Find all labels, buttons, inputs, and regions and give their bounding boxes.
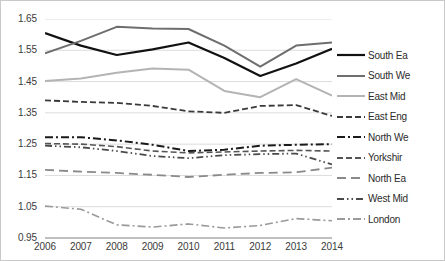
legend-swatch-icon <box>337 132 365 142</box>
series-line-west-mid <box>45 146 332 165</box>
legend-item-label: North Ea <box>368 173 406 184</box>
x-axis-tick-label: 2013 <box>279 241 313 252</box>
y-axis-tick-label: 1.25 <box>5 138 37 149</box>
legend-item-label: West Mid <box>368 193 408 204</box>
chart-figure: 0.951.051.151.251.351.451.551.65 2006200… <box>0 0 445 261</box>
legend-item-label: East Eng <box>368 111 407 122</box>
x-axis-tick-label: 2008 <box>100 241 134 252</box>
y-axis-tick-label: 1.15 <box>5 169 37 180</box>
x-axis-tick-label: 2006 <box>28 241 62 252</box>
legend-item-label: North We <box>368 132 408 143</box>
legend-item-label: East Mid <box>368 91 405 102</box>
legend-item-south-we[interactable]: South We <box>337 66 443 87</box>
chart-legend: South EaSouth WeEast MidEast EngNorth We… <box>337 45 443 230</box>
legend-item-label: Yorkshir <box>368 152 402 163</box>
legend-item-label: London <box>368 214 400 225</box>
legend-swatch-icon <box>337 194 365 204</box>
x-axis-tick-label: 2011 <box>207 241 241 252</box>
legend-item-south-ea[interactable]: South Ea <box>337 45 443 66</box>
legend-swatch-icon <box>337 50 365 60</box>
y-axis-tick-label: 1.65 <box>5 13 37 24</box>
y-axis-tick-label: 1.45 <box>5 76 37 87</box>
plot-area <box>45 19 332 238</box>
legend-swatch-icon <box>337 112 365 122</box>
legend-swatch-icon <box>337 173 365 183</box>
y-axis-tick-label: 1.55 <box>5 44 37 55</box>
y-axis-tick-label: 1.05 <box>5 201 37 212</box>
legend-item-north-ea[interactable]: North Ea <box>337 168 443 189</box>
y-axis-tick-label: 1.35 <box>5 107 37 118</box>
legend-item-london[interactable]: London <box>337 209 443 230</box>
legend-item-north-we[interactable]: North We <box>337 127 443 148</box>
x-axis-tick-label: 2014 <box>315 241 349 252</box>
x-axis-tick-label: 2010 <box>172 241 206 252</box>
legend-item-east-eng[interactable]: East Eng <box>337 107 443 128</box>
x-axis-tick-label: 2012 <box>243 241 277 252</box>
legend-item-east-mid[interactable]: East Mid <box>337 86 443 107</box>
series-line-east-eng <box>45 100 332 116</box>
legend-item-yorkshir[interactable]: Yorkshir <box>337 148 443 169</box>
legend-item-west-mid[interactable]: West Mid <box>337 189 443 210</box>
x-axis-tick-label: 2009 <box>136 241 170 252</box>
series-line-east-mid <box>45 68 332 97</box>
x-axis-tick-label: 2007 <box>64 241 98 252</box>
legend-swatch-icon <box>337 153 365 163</box>
legend-swatch-icon <box>337 71 365 81</box>
legend-swatch-icon <box>337 214 365 224</box>
legend-swatch-icon <box>337 91 365 101</box>
legend-item-label: South We <box>368 70 410 81</box>
legend-item-label: South Ea <box>368 50 408 61</box>
series-line-london <box>45 206 332 228</box>
